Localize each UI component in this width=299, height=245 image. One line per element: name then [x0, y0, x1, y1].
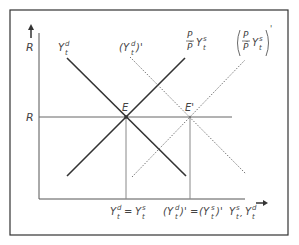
svg-text:t: t: [236, 213, 239, 221]
svg-text:': ': [270, 25, 272, 34]
svg-text:t: t: [203, 44, 206, 52]
supply-curve-shifted: [132, 60, 245, 177]
supply-curve-shifted-label: P P̄ Y s t ': [238, 25, 273, 56]
svg-text:Y: Y: [58, 42, 65, 53]
supply-curve-label: P P̄ Y s t: [186, 30, 207, 52]
svg-text:=: =: [190, 206, 198, 217]
demand-curve-shifted-label: (Y d t )': [119, 40, 143, 57]
equilibrium-point-e: [124, 115, 128, 119]
svg-text:P̄: P̄: [243, 41, 249, 52]
y-axis-arrow-icon: [28, 24, 34, 38]
is-lm-shift-diagram: R R E E' Y d t (Y d t )' P P̄ Y s t P P̄…: [0, 0, 299, 245]
equilibrium-label: E: [122, 102, 129, 113]
x-tick-label-new-equilibrium: (Y d t )' = (Y s t )': [163, 204, 223, 221]
svg-text:)': )': [135, 42, 143, 53]
svg-text:t: t: [131, 49, 134, 57]
svg-text:=: =: [124, 206, 132, 217]
x-axis-arrow-icon: [256, 200, 268, 206]
new-equilibrium-label: E': [185, 102, 194, 113]
x-tick-label-equilibrium: Y d t = Y s t: [110, 204, 146, 221]
svg-text:Y: Y: [110, 206, 117, 217]
demand-curve-label: Y d t: [58, 40, 70, 57]
svg-text:,: ,: [240, 208, 243, 218]
svg-text:(Y: (Y: [163, 206, 174, 217]
x-axis-label: Y s t , Y d t: [229, 204, 257, 221]
svg-text:Y: Y: [135, 206, 142, 217]
svg-text:t: t: [259, 44, 262, 52]
svg-text:t: t: [65, 49, 68, 57]
svg-text:d: d: [117, 204, 122, 212]
svg-text:t: t: [211, 213, 214, 221]
r-level-label: R: [26, 111, 34, 124]
svg-text:Y: Y: [252, 37, 259, 48]
svg-text:)': )': [179, 206, 187, 217]
svg-text:s: s: [211, 204, 215, 212]
demand-curve-shifted: [130, 57, 246, 174]
svg-text:d: d: [65, 40, 70, 48]
svg-text:t: t: [175, 213, 178, 221]
svg-text:s: s: [203, 35, 207, 43]
svg-text:(Y: (Y: [119, 42, 130, 53]
svg-text:t: t: [252, 213, 255, 221]
svg-text:d: d: [252, 204, 257, 212]
svg-text:(Y: (Y: [199, 206, 210, 217]
svg-text:Y: Y: [245, 206, 252, 217]
svg-text:t: t: [142, 213, 145, 221]
svg-text:P̄: P̄: [187, 41, 193, 52]
svg-text:Y: Y: [196, 37, 203, 48]
svg-text:P: P: [243, 30, 249, 40]
svg-text:s: s: [142, 204, 146, 212]
equilibrium-point-e-prime: [189, 116, 191, 118]
svg-text:Y: Y: [229, 206, 236, 217]
y-axis-label: R: [26, 41, 34, 54]
svg-text:P: P: [187, 30, 193, 40]
svg-text:s: s: [259, 35, 263, 43]
svg-text:t: t: [117, 213, 120, 221]
svg-text:)': )': [215, 206, 223, 217]
